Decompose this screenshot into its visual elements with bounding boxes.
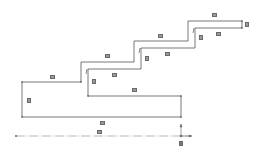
dim-label-top-step-inner-notch: ▯ — [199, 35, 203, 40]
dim-label-centerline-length: ▭ — [97, 130, 102, 134]
dim-label-second-step-inner-notch: ▯ — [92, 79, 96, 84]
inner-notch-ticks — [86, 28, 194, 74]
dim-label-base-inner-width: ▭ — [132, 88, 137, 92]
stepped-profile-drawing — [0, 0, 264, 155]
dim-label-first-step-width: ▭ — [50, 75, 55, 79]
dim-label-third-step-inner-notch: ▯ — [145, 56, 149, 61]
dim-label-second-step-width: ▭ — [105, 54, 110, 58]
dim-label-first-step-height: ▯ — [27, 98, 31, 103]
centerline-start-dot — [15, 135, 17, 137]
dim-label-second-step-inner-width: ▭ — [112, 73, 117, 77]
origin-axes — [180, 124, 192, 137]
dim-label-top-step-height: ▯ — [245, 22, 249, 27]
base-outline — [22, 82, 181, 117]
dim-label-base-overall-width: ▭ — [100, 121, 105, 125]
dim-label-third-step-inner-width: ▭ — [165, 52, 170, 56]
dim-label-top-step-width: ▭ — [212, 13, 217, 17]
origin-marker-icon: ▣ — [179, 141, 183, 146]
dim-label-third-step-width: ▭ — [158, 34, 163, 38]
outer-step-profile — [22, 21, 242, 82]
dim-label-top-step-inner-width: ▭ — [216, 32, 221, 36]
